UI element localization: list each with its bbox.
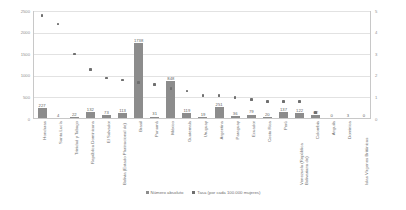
rate-marker bbox=[41, 14, 44, 17]
bar-value-label: 36 bbox=[227, 112, 243, 117]
x-axis-tick-label: Islas Vírgenes Británicas bbox=[365, 121, 370, 185]
bar bbox=[247, 115, 256, 118]
legend-square-icon bbox=[146, 191, 149, 194]
x-axis-tick-label: Santa Lucía bbox=[59, 121, 64, 144]
bar bbox=[102, 115, 111, 118]
y-axis-right-tick-label: 5 bbox=[375, 9, 389, 14]
x-axis-tick-label: Costa Rica bbox=[268, 121, 273, 142]
bar-value-label: 137 bbox=[275, 108, 291, 113]
bar-value-label: 79 bbox=[243, 110, 259, 115]
x-axis-tick-label: El Salvador bbox=[107, 121, 112, 143]
bar-value-label: 251 bbox=[211, 103, 227, 108]
y-axis-right-tick-label: 4 bbox=[375, 30, 389, 35]
gridline bbox=[34, 54, 370, 55]
rate-marker bbox=[314, 111, 317, 114]
bar-value-label: 73 bbox=[98, 111, 114, 116]
bar-value-label: 113 bbox=[114, 109, 130, 114]
x-axis-tick-label: Trinidad y Tabago bbox=[75, 121, 80, 155]
rate-marker bbox=[250, 98, 253, 101]
x-axis-tick-label: República Dominicana bbox=[91, 121, 96, 164]
bar-value-label: 20 bbox=[259, 113, 275, 118]
y-axis-left-tick-label: 1000 bbox=[2, 73, 30, 78]
bar bbox=[279, 112, 288, 118]
plot-area: 2274221327311317383184811919251367920137… bbox=[33, 11, 371, 119]
x-axis-tick-label: Paraguay bbox=[236, 121, 241, 139]
rate-marker bbox=[186, 90, 189, 93]
chart-legend: Número absolutoTasa (por cada 100.000 mu… bbox=[0, 190, 406, 195]
y-axis-left-tick-label: 500 bbox=[2, 95, 30, 100]
gridline bbox=[34, 97, 370, 98]
x-axis-tick-label: Honduras bbox=[43, 121, 48, 140]
legend-item[interactable]: Número absoluto bbox=[146, 190, 184, 195]
bar-value-label: 0 bbox=[356, 114, 372, 119]
x-axis-tick-label: Argentina bbox=[220, 121, 225, 139]
rate-marker bbox=[153, 83, 156, 86]
legend-dot-icon bbox=[192, 191, 195, 194]
bar-value-label: 119 bbox=[179, 109, 195, 114]
bar bbox=[311, 115, 320, 118]
legend-item[interactable]: Tasa (por cada 100.000 mujeres) bbox=[192, 190, 260, 195]
rate-marker bbox=[202, 94, 205, 97]
y-axis-left-tick-label: 0 bbox=[2, 117, 30, 122]
x-axis-tick-label: Ecuador bbox=[252, 121, 257, 137]
rate-marker bbox=[105, 77, 108, 80]
bar-value-label: 122 bbox=[292, 109, 308, 114]
rate-marker bbox=[89, 68, 92, 71]
x-axis-tick-label: Panamá bbox=[155, 121, 160, 137]
x-axis-tick-label: México bbox=[171, 121, 176, 135]
gridline bbox=[34, 11, 370, 12]
bar-value-label: 227 bbox=[34, 104, 50, 109]
rate-marker bbox=[282, 100, 285, 103]
x-axis-tick-label: Bolivia (Estado Plurinacional de) bbox=[123, 121, 128, 185]
x-axis-category-labels: HondurasSanta LucíaTrinidad y TabagoRepú… bbox=[33, 121, 371, 193]
x-axis-tick-label: Brasil bbox=[139, 121, 144, 132]
x-axis-tick-label: Colombia bbox=[316, 121, 321, 139]
bar bbox=[295, 113, 304, 118]
x-axis-tick-label: Anguila bbox=[332, 121, 337, 135]
femicide-chart: 05001000150020002500012345 2274221327311… bbox=[0, 0, 406, 210]
gridline bbox=[34, 33, 370, 34]
gridline bbox=[34, 76, 370, 77]
bar-value-label: 4 bbox=[50, 114, 66, 119]
rate-marker bbox=[266, 100, 269, 103]
y-axis-right-tick-label: 0 bbox=[375, 117, 389, 122]
bar-value-label: 31 bbox=[147, 112, 163, 117]
rate-marker bbox=[298, 100, 301, 103]
y-axis-right-tick-label: 2 bbox=[375, 73, 389, 78]
x-axis-tick-label: Uruguay bbox=[204, 121, 209, 137]
bar-value-label: 22 bbox=[66, 113, 82, 118]
y-axis-left-tick-label: 2000 bbox=[2, 30, 30, 35]
y-axis-right-tick-label: 1 bbox=[375, 95, 389, 100]
rate-marker bbox=[137, 81, 140, 84]
bar bbox=[86, 112, 95, 118]
rate-marker bbox=[121, 79, 124, 82]
x-axis-tick-label: Dominica bbox=[348, 121, 353, 139]
rate-marker bbox=[57, 23, 60, 26]
y-axis-left-tick-label: 1500 bbox=[2, 52, 30, 57]
legend-label: Número absoluto bbox=[151, 190, 184, 195]
bar bbox=[182, 113, 191, 118]
bar-value-label: 19 bbox=[195, 113, 211, 118]
y-axis-right-tick-label: 3 bbox=[375, 52, 389, 57]
bar-value-label: 3 bbox=[340, 114, 356, 119]
bar bbox=[118, 113, 127, 118]
y-axis-left-tick-label: 2500 bbox=[2, 9, 30, 14]
x-axis-tick-label: Guatemala bbox=[188, 121, 193, 142]
bar bbox=[215, 107, 224, 118]
legend-label: Tasa (por cada 100.000 mujeres) bbox=[197, 190, 260, 195]
bar-value-label: 848 bbox=[163, 77, 179, 82]
bar-value-label: 132 bbox=[82, 108, 98, 113]
bar bbox=[38, 108, 47, 118]
x-axis-tick-label: Perú bbox=[284, 121, 289, 130]
bar-value-label: 1738 bbox=[131, 39, 147, 44]
rate-marker bbox=[218, 94, 221, 97]
bar-value-label: 0 bbox=[324, 114, 340, 119]
x-axis-tick-label: Venezuela (República Bolivariana de) bbox=[300, 121, 309, 185]
